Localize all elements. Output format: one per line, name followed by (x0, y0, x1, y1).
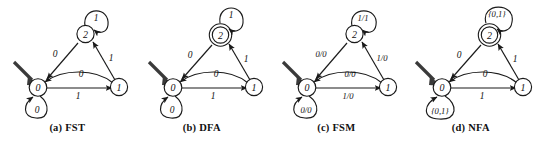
edge-label-0-to-1: 1 (76, 91, 81, 101)
edge-label-2-to-0: 0 (53, 49, 58, 59)
state-0-label: 0 (439, 82, 444, 93)
state-2-label: 2 (487, 30, 492, 41)
state-1-label: 1 (386, 82, 391, 93)
edge-label-2-to-0: 0 (456, 50, 461, 60)
edge-label-1-to-2: 1 (243, 54, 248, 64)
edge-label-1-to-0: 0 (482, 69, 487, 79)
state-0-label: 0 (305, 82, 310, 93)
figure-panel-row: 1 0 1 0 1 0 2 0 1 (0, 0, 538, 149)
edge-label-0-to-1: 1 (479, 91, 484, 101)
figure-panel-fst: 1 0 1 0 1 0 2 0 1 (0, 0, 135, 149)
edge-label-self-loop-state-0: 0/0 (301, 105, 313, 115)
caption-index: (c) (317, 122, 329, 133)
state-0-label: 0 (36, 82, 41, 93)
caption-label: FST (65, 122, 85, 133)
state-2-label: 2 (218, 30, 223, 41)
edge-label-1-to-2: 1 (109, 53, 114, 63)
edge-label-1-to-0: 0/0 (345, 69, 357, 79)
figure-panel-dfa: 1 0 1 0 1 0 2 0 1 (b)DFA (135, 0, 270, 149)
edge-label-self-loop-state-2: 1 (94, 13, 99, 23)
edge-label-self-loop-state-2: 1/1 (358, 13, 369, 23)
state-diagram-fst: 1 0 1 0 1 0 2 0 1 (0, 0, 135, 122)
panel-caption-fst: (a)FST (0, 122, 135, 133)
state-1-label: 1 (520, 82, 525, 93)
panel-caption-nfa: (d)NFA (404, 122, 538, 133)
edge-label-self-loop-state-0: 0 (35, 105, 40, 115)
edge-label-2-to-0: 0 (187, 50, 192, 60)
state-diagram-dfa: 1 0 1 0 1 0 2 0 1 (135, 0, 270, 122)
state-2-label: 2 (83, 29, 88, 40)
edge-label-self-loop-state-2: 1 (228, 10, 233, 20)
figure-panel-nfa: {0,1} 0 1 0 1 {0,1} 2 0 1 (d)NFA (404, 0, 538, 149)
state-2-label: 2 (352, 29, 357, 40)
edge-label-self-loop-state-0: 0 (169, 105, 174, 115)
panel-caption-fsm: (c)FSM (269, 122, 404, 133)
edge-label-1-to-0: 0 (213, 69, 218, 79)
edge-label-self-loop-state-0: {0,1} (431, 106, 449, 116)
caption-label: NFA (468, 122, 489, 133)
edge-label-1-to-2: 1/0 (377, 53, 389, 63)
edge-label-0-to-1: 1/0 (343, 91, 355, 101)
edge-label-self-loop-state-2: {0,1} (488, 9, 506, 19)
state-1-label: 1 (117, 82, 122, 93)
caption-label: FSM (333, 122, 356, 133)
panel-caption-dfa: (b)DFA (135, 122, 270, 133)
edge-label-1-to-0: 0 (79, 69, 84, 79)
state-0-label: 0 (170, 82, 175, 93)
edge-label-0-to-1: 1 (210, 91, 215, 101)
figure-panel-fsm: 1/1 0/0 1/0 0/0 1/0 0/0 2 0 1 (c)FSM (269, 0, 404, 149)
caption-index: (d) (452, 122, 465, 133)
state-1-label: 1 (251, 82, 256, 93)
state-diagram-fsm: 1/1 0/0 1/0 0/0 1/0 0/0 2 0 1 (269, 0, 404, 122)
edge-label-1-to-2: 1 (512, 54, 517, 64)
edge-label-2-to-0: 0/0 (316, 49, 328, 59)
caption-index: (a) (49, 122, 62, 133)
caption-label: DFA (199, 122, 220, 133)
caption-index: (b) (183, 122, 196, 133)
state-diagram-nfa: {0,1} 0 1 0 1 {0,1} 2 0 1 (404, 0, 538, 122)
